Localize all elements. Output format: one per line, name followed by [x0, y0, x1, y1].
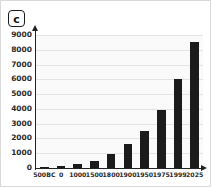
gridline [36, 50, 203, 51]
y-tick-label: 6000 [2, 75, 32, 83]
x-axis-line [35, 168, 202, 169]
y-tick-label: 9000 [2, 31, 32, 39]
x-tick-label: 0 [59, 172, 63, 178]
bar [124, 144, 133, 168]
bar [190, 42, 199, 168]
y-tick-label: 1000 [2, 149, 32, 157]
bar [107, 154, 116, 168]
bar [140, 131, 149, 168]
y-tick-label: 0 [2, 164, 32, 172]
y-axis-line [35, 30, 36, 170]
x-tick-label: 500BC [33, 172, 55, 178]
y-tick-label: 4000 [2, 105, 32, 113]
bar [90, 161, 99, 168]
bar [174, 79, 183, 168]
x-tick-label: 2025 [186, 172, 203, 178]
y-tick-label: 7000 [2, 61, 32, 69]
y-tick-label: 2000 [2, 134, 32, 142]
y-axis-tick-labels: 0100020003000400050006000700080009000 [0, 0, 32, 187]
gridline [36, 65, 203, 66]
y-axis-arrow-icon [32, 25, 38, 31]
y-tick-label: 8000 [2, 46, 32, 54]
x-tick-label: 1950 [136, 172, 153, 178]
x-tick-label: 1999 [169, 172, 186, 178]
x-tick-label: 1500 [86, 172, 103, 178]
plot-area [36, 35, 203, 168]
x-tick-label: 1975 [153, 172, 170, 178]
bar [157, 110, 166, 168]
chart-figure: c 0100020003000400050006000700080009000 … [0, 0, 211, 187]
x-tick-label: 1800 [103, 172, 120, 178]
x-tick-label: 1900 [119, 172, 136, 178]
gridline [36, 35, 203, 36]
y-tick-label: 3000 [2, 120, 32, 128]
x-axis-tick-labels: 500BC010001500180019001950197519992025 [36, 172, 203, 184]
x-tick-label: 1000 [69, 172, 86, 178]
y-tick-label: 5000 [2, 90, 32, 98]
